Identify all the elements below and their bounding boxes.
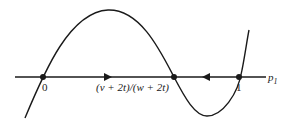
arrow-right-icon [104,73,112,81]
label-zero: 0 [42,81,48,93]
phase-diagram: 0 (v + 2t)/(w + 2t) 1 p1 [0,0,294,128]
axis-label: p1 [267,71,278,86]
equilibrium-point-interior [171,74,177,80]
cubic-curve [25,10,249,118]
equilibrium-point-1 [236,74,242,80]
arrow-left-icon [202,73,210,81]
label-one: 1 [236,81,242,93]
label-interior: (v + 2t)/(w + 2t) [96,81,169,94]
equilibrium-point-0 [40,74,46,80]
